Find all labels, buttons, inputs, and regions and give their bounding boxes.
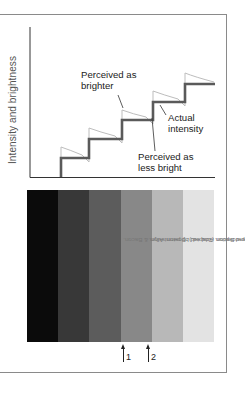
leader-brighter bbox=[118, 95, 123, 108]
band-3 bbox=[89, 190, 120, 342]
band-1 bbox=[27, 190, 58, 342]
leader-actual bbox=[160, 105, 166, 115]
mach-bands bbox=[27, 190, 214, 342]
arrow-label-2: 2 bbox=[151, 352, 156, 362]
label-perceived-brighter: Perceived as brighter bbox=[81, 69, 136, 91]
band-2 bbox=[58, 190, 89, 342]
label-actual-intensity: Actual intensity bbox=[168, 112, 203, 134]
band-4 bbox=[121, 190, 152, 342]
arrow-up-icon-1 bbox=[123, 347, 124, 362]
label-perceived-less-bright: Perceived as less bright bbox=[138, 151, 193, 173]
arrow-up-icon-2 bbox=[148, 347, 149, 362]
band-5 bbox=[152, 190, 183, 342]
citation-line-2: Copyright © 1988 by Allyn and Bacon. Ada… bbox=[149, 236, 245, 244]
arrow-label-1: 1 bbox=[126, 352, 131, 362]
band-6 bbox=[183, 190, 214, 342]
